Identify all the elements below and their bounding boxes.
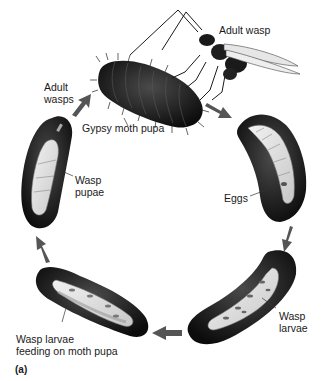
label-wasp-larvae-feeding-line2: feeding on moth pupa [16, 345, 118, 357]
label-adult-wasp: Adult wasp [219, 24, 270, 36]
arrow-eggs-to-larvae [282, 226, 293, 252]
wasp-larvae-feeding-stage-illustration [36, 267, 148, 337]
panel-label: (a) [15, 364, 27, 375]
label-eggs: Eggs [224, 192, 248, 204]
label-adult-wasps-line1: Adult [44, 81, 74, 93]
label-wasp-larvae-feeding-line1: Wasp larvae [16, 333, 118, 345]
label-gypsy-moth-pupa: Gypsy moth pupa [82, 122, 164, 134]
label-wasp-pupae-line1: Wasp [75, 174, 104, 186]
label-wasp-pupae-line2: pupae [75, 186, 104, 198]
label-adult-wasps: Adult wasps [44, 81, 74, 105]
label-wasp-larvae-line2: larvae [279, 322, 308, 334]
arrow-larvae-to-feeding [152, 326, 182, 340]
label-wasp-larvae-feeding: Wasp larvae feeding on moth pupa [16, 333, 118, 357]
arrow-pupae-to-adults [72, 94, 91, 117]
label-wasp-pupae: Wasp pupae [75, 174, 104, 198]
label-adult-wasps-line2: wasps [44, 93, 74, 105]
arrow-pupa-to-eggs [205, 103, 232, 118]
life-cycle-diagram [0, 0, 325, 381]
label-wasp-larvae: Wasp larvae [279, 310, 308, 334]
arrow-feeding-to-pupae [36, 236, 50, 263]
label-wasp-larvae-line1: Wasp [279, 310, 308, 322]
eggs-stage-illustration [237, 114, 306, 222]
